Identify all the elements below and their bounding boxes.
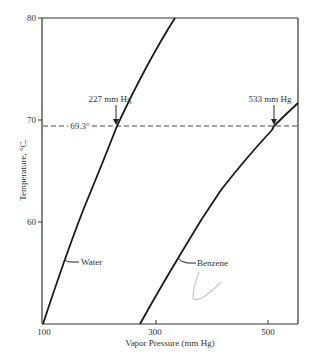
x-tick-label-300: 300 xyxy=(148,327,162,337)
y-axis-title: Temperature, °C. xyxy=(18,139,28,201)
benzene-intersection-annotation: 533 mm Hg xyxy=(248,94,292,125)
x-tick-label-100: 100 xyxy=(37,327,51,337)
water-curve xyxy=(43,18,175,324)
pencil-check-mark xyxy=(193,272,221,300)
benzene-series-label: Benzene xyxy=(197,258,228,268)
x-axis-title: Vapor Pressure (mm Hg) xyxy=(125,338,215,348)
water-series-label-group: Water xyxy=(65,257,102,267)
y-tick-label-80: 80 xyxy=(27,13,37,23)
dashed-line-label: 69.3° xyxy=(70,121,90,131)
x-tick-label-500: 500 xyxy=(261,327,275,337)
vapor-pressure-chart: 80 70 60 100 300 500 Vapor Pressure (mm … xyxy=(0,0,315,359)
dashed-reference-line: 69.3° xyxy=(43,121,297,131)
water-leader-line xyxy=(65,260,79,262)
water-arrow-label: 227 mm Hg xyxy=(88,94,132,104)
plot-frame xyxy=(42,18,298,324)
benzene-curve xyxy=(140,103,298,324)
x-ticks: 100 300 500 xyxy=(37,320,275,337)
water-series-label: Water xyxy=(81,257,102,267)
benzene-leader-line xyxy=(178,258,196,263)
y-ticks: 80 70 60 xyxy=(27,13,42,227)
y-tick-label-70: 70 xyxy=(27,115,37,125)
y-tick-label-60: 60 xyxy=(27,217,37,227)
benzene-series-label-group: Benzene xyxy=(178,258,228,268)
benzene-arrow-label: 533 mm Hg xyxy=(248,94,292,104)
